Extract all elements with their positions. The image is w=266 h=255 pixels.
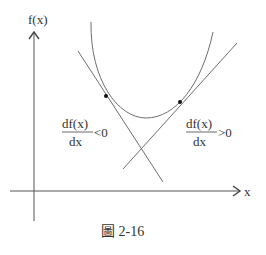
y-axis-label: f(x) bbox=[28, 12, 48, 27]
function-curve bbox=[91, 22, 213, 118]
left-derivative-relation: <0 bbox=[94, 125, 108, 140]
left-derivative-numerator: df(x) bbox=[62, 116, 88, 131]
tangent-line-negative bbox=[78, 51, 163, 182]
figure-caption: 圖 2-16 bbox=[101, 224, 144, 239]
tangent-line-positive bbox=[123, 43, 237, 169]
right-derivative-numerator: df(x) bbox=[186, 116, 212, 131]
right-derivative-denominator: dx bbox=[193, 134, 207, 149]
right-derivative-relation: >0 bbox=[218, 125, 232, 140]
tangent-point-right bbox=[178, 100, 182, 104]
left-derivative-denominator: dx bbox=[69, 134, 83, 149]
derivative-sign-diagram: f(x) x df(x) dx <0 df(x) dx >0 圖 2-16 bbox=[0, 0, 266, 255]
tangent-point-left bbox=[104, 94, 108, 98]
x-axis-label: x bbox=[244, 184, 251, 199]
